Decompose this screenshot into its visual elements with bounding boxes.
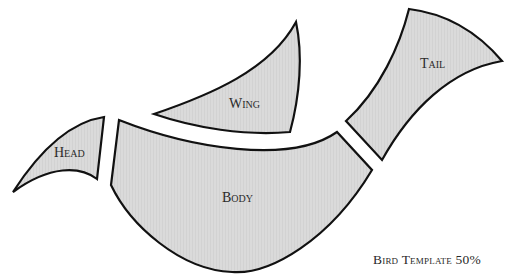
head-label: Head: [54, 145, 85, 160]
body-piece: Body: [111, 120, 372, 272]
wing-label: Wing: [229, 96, 260, 111]
head-piece: Head: [13, 117, 104, 192]
tail-piece: Tail: [346, 9, 502, 160]
body-label: Body: [222, 190, 253, 205]
template-caption: Bird Template 50%: [373, 252, 481, 268]
wing-piece: Wing: [154, 22, 300, 133]
bird-template-diagram: Head Wing Body Tail: [0, 0, 506, 276]
tail-label: Tail: [420, 56, 445, 71]
